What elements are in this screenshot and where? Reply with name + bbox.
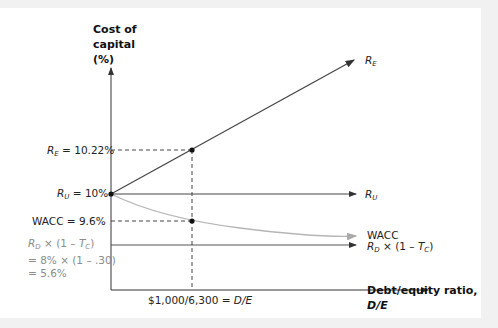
wacc-value-label: WACC = 9.6% <box>32 215 106 228</box>
re-point <box>189 147 194 152</box>
de-suffix-text: D/E <box>234 294 252 306</box>
y-axis-title-line: (%) <box>93 52 137 67</box>
y-axis-title-line: Cost of <box>93 22 137 37</box>
paren-text: ) <box>429 240 433 252</box>
x-axis-title: Debt/equity ratio, D/E <box>367 283 478 313</box>
rd-formula-line2: = 8% × (1 – .30) <box>28 254 116 267</box>
y-axis-title: Cost of capital (%) <box>93 22 137 67</box>
ru-value-text: = 10% <box>73 187 108 199</box>
re-line <box>111 60 354 194</box>
re-value-text: = 10.22% <box>62 144 114 156</box>
paren-text: ) <box>90 237 94 249</box>
rd-line-label: RD × (1 – TC) <box>367 240 433 257</box>
x-axis-title-line: D/E <box>367 298 478 313</box>
rd-formula-line: RD × (1 – TC) <box>28 237 116 254</box>
rd-times-text: × (1 – <box>380 240 418 252</box>
wacc-point <box>189 218 194 223</box>
rd-value-label: RD × (1 – TC) = 8% × (1 – .30) = 5.6% <box>28 237 116 280</box>
rd-times-text: × (1 – <box>41 237 79 249</box>
rd-formula-line3: = 5.6% <box>28 267 116 280</box>
re-value-label: RE = 10.22% <box>47 144 114 161</box>
re-line-label: RE <box>365 54 377 71</box>
ru-line-label: RU <box>365 188 377 205</box>
wacc-curve <box>111 194 356 236</box>
y-axis-title-line: capital <box>93 37 137 52</box>
ru-point <box>108 191 113 196</box>
x-axis-title-line: Debt/equity ratio, <box>367 283 478 298</box>
ru-value-label: RU = 10% <box>57 187 108 204</box>
de-value-text: $1,000/6,300 = <box>148 294 234 306</box>
de-value-label: $1,000/6,300 = D/E <box>148 294 252 307</box>
